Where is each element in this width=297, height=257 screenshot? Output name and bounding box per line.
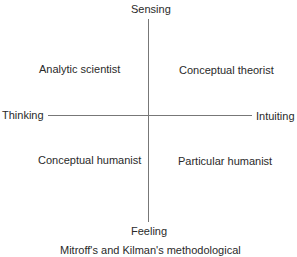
axis-label-thinking: Thinking <box>2 109 44 122</box>
horizontal-axis-line <box>48 115 252 116</box>
quadrant-particular-humanist: Particular humanist <box>178 155 272 168</box>
axis-label-sensing: Sensing <box>131 3 171 16</box>
quadrant-analytic-scientist: Analytic scientist <box>39 63 120 76</box>
axis-label-intuiting: Intuiting <box>256 110 295 123</box>
axis-label-feeling: Feeling <box>131 225 167 238</box>
quadrant-conceptual-theorist: Conceptual theorist <box>179 64 274 77</box>
figure-caption: Mitroff's and Kilman's methodological <box>60 244 241 257</box>
vertical-axis-line <box>148 19 149 222</box>
quadrant-conceptual-humanist: Conceptual humanist <box>38 154 141 167</box>
